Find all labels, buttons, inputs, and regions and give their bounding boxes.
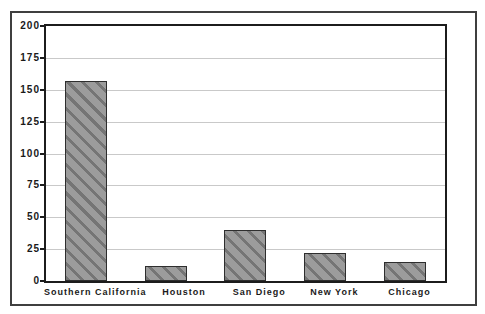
bar-slot-chicago	[365, 26, 445, 281]
chart-canvas: 0255075100125150175200 Southern Californ…	[0, 0, 485, 314]
bar-slot-houston	[126, 26, 206, 281]
bar-new-york	[304, 253, 346, 281]
x-axis-label-houston: Houston	[147, 288, 222, 297]
y-axis-tick-0	[40, 280, 44, 282]
y-axis-label-25: 25	[27, 244, 40, 254]
bar-slot-new-york	[285, 26, 365, 281]
plot-area	[44, 24, 447, 283]
x-axis-labels: Southern CaliforniaHoustonSan DiegoNew Y…	[44, 288, 447, 297]
bar-houston	[145, 266, 187, 281]
y-axis-tick-150	[40, 89, 44, 91]
y-axis-label-100: 100	[20, 149, 40, 159]
x-axis-label-san-diego: San Diego	[222, 288, 297, 297]
bar-slot-san-diego	[206, 26, 286, 281]
bar-southern-california	[65, 81, 107, 281]
y-axis-labels: 0255075100125150175200	[12, 26, 40, 281]
y-axis-label-125: 125	[20, 117, 40, 127]
y-axis-label-200: 200	[20, 21, 40, 31]
bar-slot-southern-california	[46, 26, 126, 281]
y-axis-tick-25	[40, 248, 44, 250]
y-axis-label-150: 150	[20, 85, 40, 95]
bar-san-diego	[224, 230, 266, 281]
y-axis-label-75: 75	[27, 180, 40, 190]
y-axis-label-50: 50	[27, 212, 40, 222]
y-axis-ticks	[40, 26, 44, 281]
y-axis-label-175: 175	[20, 53, 40, 63]
x-axis-label-southern-california: Southern California	[44, 288, 147, 297]
y-axis-tick-50	[40, 216, 44, 218]
y-axis-tick-175	[40, 57, 44, 59]
x-axis-label-chicago: Chicago	[372, 288, 447, 297]
y-axis-tick-200	[40, 25, 44, 27]
y-axis-tick-125	[40, 121, 44, 123]
x-axis-label-new-york: New York	[297, 288, 372, 297]
y-axis-tick-75	[40, 184, 44, 186]
y-axis-tick-100	[40, 153, 44, 155]
bar-chicago	[384, 262, 426, 281]
